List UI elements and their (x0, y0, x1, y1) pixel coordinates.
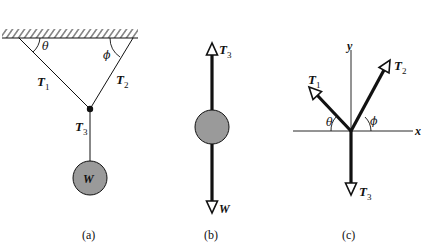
label-y-axis: y (345, 39, 353, 53)
vector-t1-shaft (317, 95, 351, 131)
label-phi: ϕ (103, 49, 111, 62)
caption-c: (c) (342, 228, 355, 242)
label-t3-sub: 3 (83, 127, 88, 137)
caption-b: (b) (204, 228, 218, 242)
panel-c: y x θ ϕ T 1 T 2 T 3 (c) (293, 39, 421, 242)
label-theta: θ (326, 116, 333, 129)
arrowhead-t2-icon (379, 60, 390, 73)
angle-theta-arc (33, 38, 40, 52)
label-t1-sub: 1 (45, 82, 50, 92)
rope-t1 (19, 38, 90, 109)
weight-ball (195, 110, 229, 144)
arrowhead-down-icon (207, 201, 218, 213)
rope-t2 (90, 38, 133, 109)
angle-phi-arc (110, 38, 120, 57)
label-weight: W (219, 202, 231, 216)
arrowhead-t3-icon (346, 183, 357, 195)
label-t3-sub: 3 (227, 50, 232, 60)
ceiling-hatching (2, 29, 138, 38)
knot-point (87, 106, 93, 112)
label-t3-sub: 3 (367, 192, 372, 202)
label-t1-sub: 1 (316, 80, 321, 90)
label-t2-sub: 2 (402, 66, 407, 76)
panel-b: T 3 W (b) (195, 42, 232, 242)
label-t2-sub: 2 (124, 80, 129, 90)
force-diagram: θ ϕ T 1 T 2 T 3 W (a) T 3 W (b) y (0, 0, 425, 245)
arrowhead-up-icon (207, 43, 218, 55)
label-theta: θ (42, 40, 49, 53)
vector-t2-shaft (351, 70, 384, 131)
label-x-axis: x (414, 124, 421, 138)
label-phi: ϕ (370, 115, 378, 128)
caption-a: (a) (82, 228, 95, 242)
panel-a: θ ϕ T 1 T 2 T 3 W (a) (2, 29, 138, 242)
label-weight: W (83, 172, 95, 186)
